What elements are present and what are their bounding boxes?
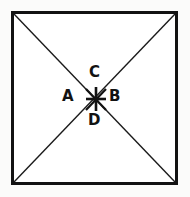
label-c: C <box>89 65 100 80</box>
center-point-icon <box>93 96 98 101</box>
square-diagonals-figure <box>0 0 190 197</box>
figure-container: A B C D <box>0 0 190 197</box>
label-d: D <box>88 113 100 128</box>
label-a: A <box>62 89 74 104</box>
label-b: B <box>109 89 120 104</box>
